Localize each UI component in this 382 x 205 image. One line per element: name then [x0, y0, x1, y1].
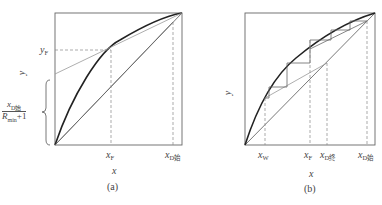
panel-a-diagonal-to-xd	[55, 22, 173, 145]
panel-b-stair-steps	[265, 21, 367, 98]
panel-a-plot	[42, 13, 182, 145]
panel-a-xf-label: xF	[106, 150, 114, 162]
panel-a-xd-initial-label: xD始	[165, 150, 181, 162]
panel-a-x-axis-label: x	[112, 166, 116, 176]
panel-a-yf-label: yF	[40, 45, 48, 57]
panel-b-caption: (b)	[304, 183, 316, 194]
panel-b-xd-final-label: xD终	[320, 150, 336, 162]
panel-b-operating-line-initial	[310, 21, 367, 49]
panel-b-xf-label: xF	[304, 150, 312, 162]
panel-a-y-axis-label: y	[17, 71, 27, 75]
panel-a-operating-line	[55, 13, 182, 74]
panel-a-caption: (a)	[107, 181, 118, 192]
diagram-canvas	[0, 0, 382, 205]
panel-a-brace	[42, 80, 50, 145]
panel-a-intercept-fraction: xD始 Rmin+1	[2, 100, 26, 124]
panel-b-xd-initial-label: xD始	[358, 150, 374, 162]
panel-b-xw-label: xW	[258, 150, 269, 162]
panel-b-plot	[245, 13, 375, 145]
panel-b-x-axis-label: x	[309, 169, 313, 179]
panel-b-y-axis-label: y	[223, 91, 233, 95]
